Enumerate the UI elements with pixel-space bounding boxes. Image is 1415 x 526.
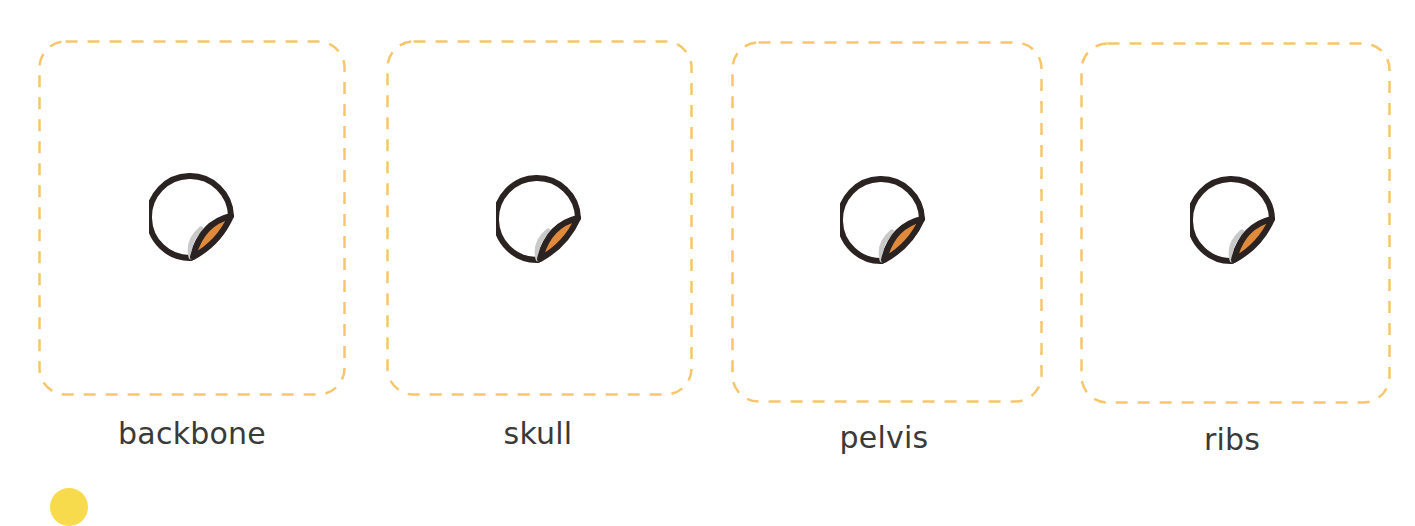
card-label: skull [504, 416, 573, 451]
sticker-peel-icon [496, 173, 586, 265]
card-label: backbone [118, 416, 266, 451]
card-label: pelvis [840, 420, 929, 455]
yellow-dot-decoration [50, 488, 88, 526]
sticker-card-pelvis[interactable] [731, 41, 1043, 403]
sticker-card-skull[interactable] [386, 40, 693, 396]
sticker-peel-icon [1190, 174, 1280, 266]
sticker-card-ribs[interactable] [1080, 42, 1391, 404]
sticker-card-backbone[interactable] [38, 40, 346, 396]
sticker-peel-icon [149, 171, 239, 263]
sticker-peel-icon [840, 174, 930, 266]
card-label: ribs [1204, 422, 1260, 457]
